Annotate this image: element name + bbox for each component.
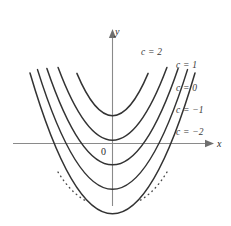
contour-label-c-minus-1: c = −1: [176, 106, 204, 116]
contour-label-c-0: c = 0: [176, 84, 197, 94]
level-curves-figure: y x 0 c = 2 c = 1 c = 0 c = −1 c = −2: [0, 0, 231, 226]
y-axis-label: y: [115, 27, 119, 37]
contour-label-c-2: c = 2: [141, 48, 162, 58]
origin-label: 0: [101, 147, 106, 157]
x-axis-label: x: [217, 139, 221, 149]
contour-label-c-1: c = 1: [176, 61, 197, 71]
dotted-continuation-left: [58, 172, 86, 201]
y-axis: [109, 29, 116, 206]
dotted-continuation-right: [139, 172, 167, 201]
contour-label-c-minus-2: c = −2: [176, 128, 204, 138]
